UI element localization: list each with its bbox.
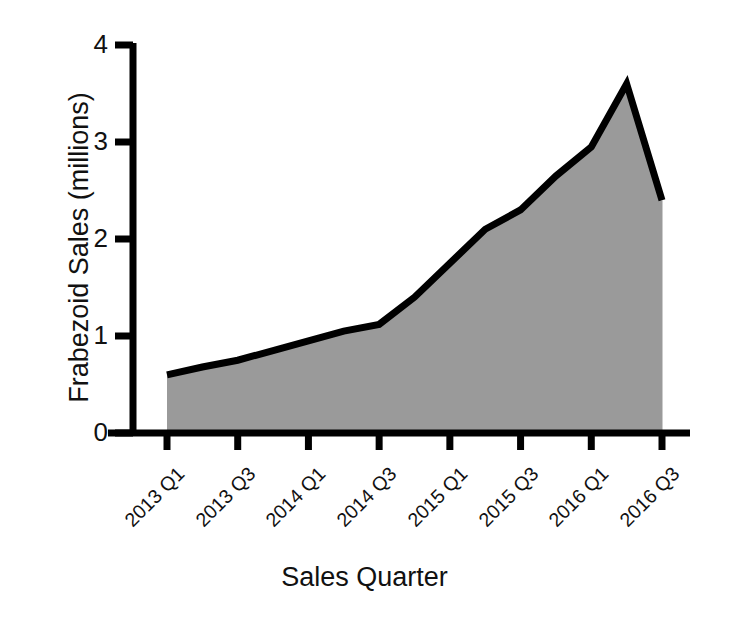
y-axis-tick-label: 2 <box>68 223 108 254</box>
area-fill <box>167 84 662 433</box>
y-axis-tick-label: 3 <box>68 126 108 157</box>
y-axis-tick-label: 0 <box>68 417 108 448</box>
y-axis-tick-label: 1 <box>68 320 108 351</box>
chart-figure: Frabezoid Sales (millions) Sales Quarter… <box>0 0 729 627</box>
y-axis-tick-label: 4 <box>68 29 108 60</box>
